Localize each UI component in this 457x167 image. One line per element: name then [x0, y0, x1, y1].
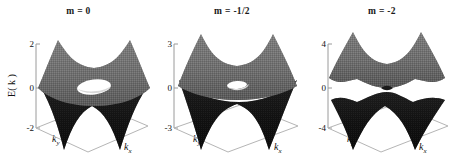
- panel-m-half: m = -1/2 3 0 -3 ky kx: [157, 0, 307, 167]
- surface-plot-m-half: [157, 0, 307, 167]
- surface-plot-m-2: [307, 0, 457, 167]
- upper-band-mesh: [38, 40, 150, 106]
- figure-container: m = 0 E( k ) 2 0 -2 ky kx: [0, 0, 457, 167]
- surface-plot-m-0: [0, 0, 157, 167]
- panel-m-0: m = 0 E( k ) 2 0 -2 ky kx: [0, 0, 157, 167]
- upper-band-mesh: [329, 32, 445, 88]
- panel-m-2: m = -2 4 0 -4 ky kx: [307, 0, 457, 167]
- lower-band-mesh: [331, 92, 445, 150]
